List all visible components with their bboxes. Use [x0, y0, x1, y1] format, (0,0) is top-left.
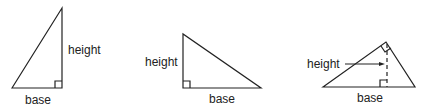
base-label: base: [357, 91, 383, 105]
right-angle-marker: [55, 81, 62, 88]
triangle-1-shape: [12, 8, 62, 88]
right-angle-marker: [183, 81, 190, 88]
triangles-diagram: height base height base height base: [0, 0, 423, 109]
triangle-2-shape: [183, 34, 261, 88]
arrow-head-icon: [379, 62, 385, 66]
triangle-2: height base: [145, 34, 261, 106]
triangle-3: height base: [307, 42, 415, 105]
height-label: height: [145, 55, 178, 69]
height-label: height: [68, 43, 101, 57]
triangle-1: height base: [12, 8, 101, 107]
base-label: base: [25, 93, 51, 107]
height-label: height: [307, 57, 340, 71]
base-label: base: [209, 92, 235, 106]
right-angle-marker-base: [380, 80, 387, 87]
